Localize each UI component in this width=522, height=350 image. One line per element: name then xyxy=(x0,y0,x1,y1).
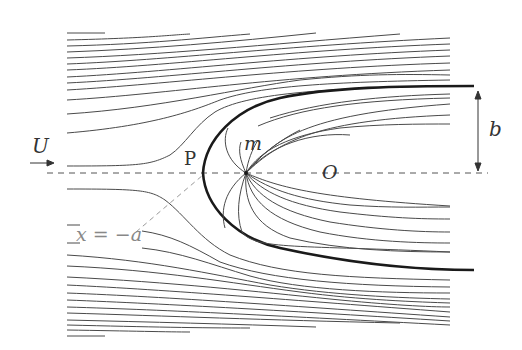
label-x-equals-minus-a: x = −a xyxy=(76,225,142,244)
label-U: U xyxy=(32,136,49,156)
label-m: m xyxy=(244,134,262,153)
lower-outer-streamlines xyxy=(67,189,450,336)
label-P: P xyxy=(184,150,196,168)
uniform-flow-arrow xyxy=(30,160,54,166)
label-b: b xyxy=(489,119,502,139)
source-point xyxy=(244,171,248,175)
half-body-flow-diagram xyxy=(0,0,522,350)
half-width-dimension-arrow xyxy=(475,91,481,171)
label-O: O xyxy=(322,163,338,182)
